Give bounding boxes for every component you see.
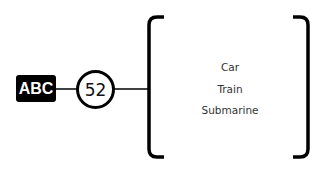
abc-label: ABC [19,80,54,98]
diagram-canvas: ABC 52 Car Train Submarine [0,0,327,171]
left-bracket-icon [149,17,164,157]
list-item: Train [170,79,290,101]
count-label: 52 [85,80,107,100]
abc-source-node: ABC [16,75,56,102]
bracketed-list: Car Train Submarine [170,57,290,122]
right-bracket-icon [293,17,308,157]
count-circle-node: 52 [76,70,115,109]
list-item: Submarine [170,100,290,122]
list-item: Car [170,57,290,79]
